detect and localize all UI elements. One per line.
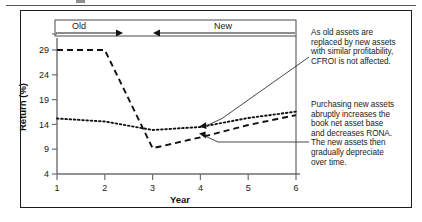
x-tick-label-5: 6 bbox=[293, 183, 298, 193]
period-bracket-box bbox=[55, 20, 296, 36]
annotation-leader-1 bbox=[199, 57, 309, 129]
x-axis-ticks: 1 2 3 4 5 6 bbox=[54, 174, 298, 193]
period-bracket-rect bbox=[55, 20, 296, 36]
x-tick-label-0: 1 bbox=[54, 183, 59, 193]
x-tick-label-4: 5 bbox=[246, 183, 251, 193]
old-arrow-head-icon bbox=[116, 30, 123, 37]
y-tick-label-4: 24 bbox=[39, 70, 49, 80]
x-tick-label-3: 4 bbox=[198, 183, 203, 193]
y-tick-label-0: 4 bbox=[44, 169, 49, 179]
y-tick-label-2: 14 bbox=[39, 120, 49, 130]
new-arrow-head-icon bbox=[153, 30, 160, 37]
leader-line-2b bbox=[205, 136, 218, 142]
x-tick-label-1: 2 bbox=[102, 183, 107, 193]
leader-arrow-head-1-icon bbox=[199, 122, 207, 129]
y-tick-label-5: 29 bbox=[39, 45, 49, 55]
y-axis-ticks: 4 9 14 19 24 29 bbox=[39, 34, 57, 179]
x-tick-label-2: 3 bbox=[150, 183, 155, 193]
y-tick-label-1: 9 bbox=[44, 144, 49, 154]
figure-container: Old New 4 9 14 19 24 29 bbox=[0, 0, 422, 222]
series-cfroi-line bbox=[57, 112, 296, 130]
period-label-old: Old bbox=[72, 21, 86, 31]
y-axis-title: Return (%) bbox=[17, 83, 28, 131]
series-rona-line bbox=[57, 50, 296, 148]
period-marker-old: Old bbox=[56, 21, 123, 37]
period-label-new: New bbox=[214, 21, 233, 31]
period-marker-new: New bbox=[153, 21, 295, 37]
annotation-note-cfroi: As old assets are replaced by new assets… bbox=[311, 28, 415, 66]
x-axis-title: Year bbox=[170, 194, 190, 205]
axes bbox=[57, 38, 300, 174]
y-tick-label-3: 19 bbox=[39, 95, 49, 105]
annotation-note-rona: Purchasing new assets abruptly increases… bbox=[311, 100, 415, 167]
